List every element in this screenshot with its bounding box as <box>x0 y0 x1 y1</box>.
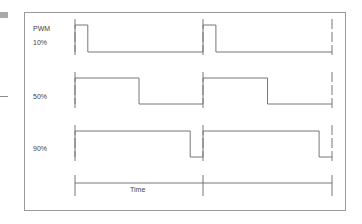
pwm-diagram: PWM 10%50%90% Time <box>0 0 362 224</box>
duty-cycle-label: 50% <box>33 93 47 100</box>
time-axis <box>75 175 332 196</box>
diagram-frame <box>25 13 346 211</box>
pwm-title-label: PWM <box>33 25 50 32</box>
waveform-row-10pct: 10% <box>33 19 332 56</box>
waveform-row-90pct: 90% <box>33 125 332 161</box>
duty-cycle-label: 90% <box>33 145 47 152</box>
time-axis-label: Time <box>130 186 145 193</box>
duty-cycle-label: 10% <box>33 39 47 46</box>
waveform-rows: 10%50%90% <box>33 19 332 161</box>
waveform-row-50pct: 50% <box>33 72 332 108</box>
